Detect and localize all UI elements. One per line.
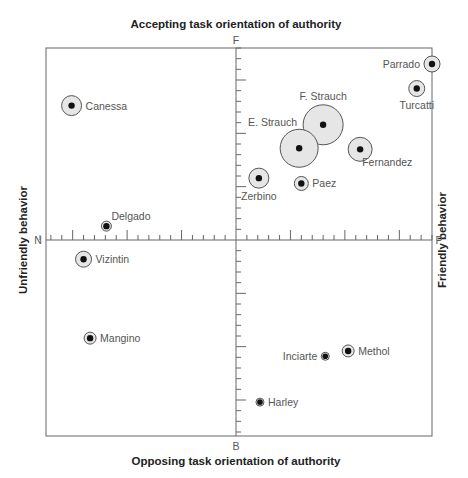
data-point: Turcatti	[399, 81, 434, 111]
point-marker	[103, 223, 109, 229]
point-marker	[257, 399, 263, 405]
data-point: Mangino	[84, 332, 140, 344]
point-marker	[357, 146, 363, 152]
data-point: Paez	[294, 176, 336, 190]
point-marker	[322, 353, 328, 359]
data-point: Delgado	[101, 210, 150, 231]
point-label: Paez	[312, 177, 336, 189]
data-point: Methol	[342, 345, 390, 357]
pole-top: F	[233, 34, 239, 46]
title-top: Accepting task orientation of authority	[131, 18, 342, 30]
point-label: Zerbino	[241, 190, 277, 202]
pole-bottom: B	[232, 440, 239, 452]
point-marker	[296, 145, 302, 151]
title-left: Unfriendly behavior	[17, 185, 29, 294]
point-marker	[256, 175, 262, 181]
data-point: Canessa	[62, 96, 128, 116]
point-label: Methol	[358, 345, 390, 357]
point-label: E. Strauch	[248, 116, 297, 128]
chart: Accepting task orientation of authority …	[0, 0, 468, 478]
point-label: Vizintin	[96, 253, 130, 265]
point-marker	[80, 256, 86, 262]
point-marker	[87, 335, 93, 341]
point-label: F. Strauch	[299, 90, 346, 102]
point-label: Turcatti	[399, 99, 434, 111]
point-label: Mangino	[100, 332, 140, 344]
point-marker	[414, 85, 420, 91]
title-bottom: Opposing task orientation of authority	[132, 455, 342, 467]
data-point: Parrado	[383, 56, 440, 72]
point-marker	[320, 122, 326, 128]
point-label: Canessa	[86, 100, 128, 112]
point-label: Delgado	[111, 210, 150, 222]
point-label: Harley	[268, 396, 299, 408]
pole-left: N	[34, 234, 42, 246]
point-label: Parrado	[383, 58, 421, 70]
point-marker	[298, 180, 304, 186]
data-point: Vizintin	[76, 251, 130, 267]
point-marker	[345, 348, 351, 354]
point-marker	[429, 61, 435, 67]
data-point: Fernandez	[348, 137, 412, 168]
point-marker	[68, 102, 74, 108]
point-label: Inciarte	[283, 350, 318, 362]
data-point: Inciarte	[283, 350, 329, 362]
points: ParradoTurcattiCanessaF. StrauchE. Strau…	[62, 56, 440, 408]
data-point: Zerbino	[241, 168, 277, 202]
pole-right: P	[435, 234, 442, 246]
data-point: Harley	[256, 396, 299, 408]
point-label: Fernandez	[362, 156, 412, 168]
